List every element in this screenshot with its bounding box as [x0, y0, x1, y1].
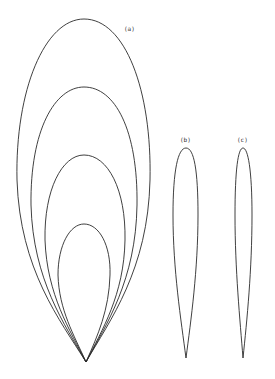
curve-a-outer — [17, 19, 150, 362]
label-c: (c) — [237, 136, 248, 143]
panel-a: (a) — [17, 19, 150, 362]
curve-a-second — [31, 87, 137, 362]
label-a: (a) — [124, 25, 135, 32]
curve-c — [235, 148, 252, 358]
curve-a-third — [45, 155, 125, 362]
curve-b — [173, 148, 198, 358]
panel-c: (c) — [235, 136, 252, 358]
figure-canvas: (a) (b) (c) — [0, 0, 275, 379]
label-b: (b) — [180, 136, 191, 143]
panel-b: (b) — [173, 136, 198, 358]
curve-a-inner — [58, 224, 110, 362]
